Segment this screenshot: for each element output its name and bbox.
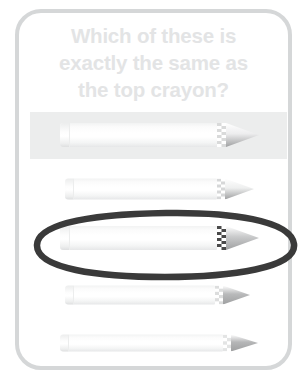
crayon-body <box>65 286 215 305</box>
crayon-zigzag-band <box>217 226 226 250</box>
option-crayon-4[interactable] <box>65 286 251 305</box>
crayon-body <box>60 335 223 352</box>
crayon-tip <box>226 226 260 250</box>
quiz-card: Which of these is exactly the same as th… <box>15 9 292 370</box>
prompt-line-3: the top crayon? <box>19 76 288 103</box>
crayon-blunt-end <box>60 123 70 147</box>
crayon-body <box>60 123 217 147</box>
crayon-body <box>60 226 217 250</box>
crayon-zigzag-band <box>215 286 223 305</box>
crayon-body <box>65 179 217 200</box>
page-title: Which of these is exactly the same as th… <box>19 22 288 103</box>
crayon-tip <box>226 123 260 147</box>
crayon-zigzag-band <box>217 123 226 147</box>
crayon-blunt-end <box>60 226 70 250</box>
crayon-blunt-end <box>65 179 74 200</box>
option-row-5[interactable] <box>19 317 296 369</box>
crayon-zigzag-band <box>217 179 225 200</box>
crayon-tip <box>231 335 259 352</box>
reference-crayon-row <box>19 109 296 161</box>
prompt-line-2: exactly the same as <box>19 49 288 76</box>
crayon-zigzag-band <box>223 335 231 352</box>
crayon-blunt-end <box>65 286 74 305</box>
option-row-2[interactable] <box>19 163 296 215</box>
option-row-3[interactable] <box>19 212 296 264</box>
crayon-blunt-end <box>60 335 69 352</box>
option-crayon-3[interactable] <box>60 226 260 250</box>
reference-crayon <box>60 123 260 147</box>
option-row-4[interactable] <box>19 269 296 321</box>
prompt-line-1: Which of these is <box>19 22 288 49</box>
option-crayon-2[interactable] <box>65 179 255 200</box>
option-crayon-5[interactable] <box>60 335 258 352</box>
crayon-tip <box>225 179 255 200</box>
crayon-tip <box>223 286 251 305</box>
